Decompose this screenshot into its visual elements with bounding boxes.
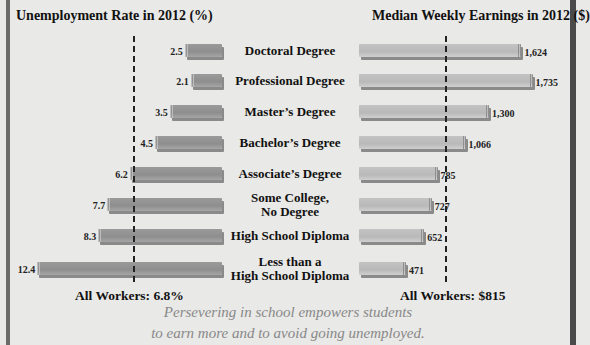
category-label-line-1: High School Diploma — [225, 229, 355, 243]
unemployment-value-label: 4.5 — [140, 138, 153, 150]
unemployment-bar — [98, 229, 222, 242]
earnings-bar — [359, 262, 406, 275]
earnings-value-label: 471 — [409, 265, 424, 277]
category-label-line-2: High School Diploma — [225, 269, 355, 283]
unemployment-title: Unemployment Rate in 2012 (%) — [16, 8, 213, 24]
category-label: Professional Degree — [225, 74, 355, 88]
unemployment-bar — [170, 105, 222, 118]
category-label-line-1: Master’s Degree — [225, 105, 355, 119]
unemployment-value-label: 6.2 — [115, 169, 128, 181]
unemployment-bar — [191, 74, 222, 87]
category-label-line-1: Some College, — [225, 191, 355, 205]
unemployment-value-label: 2.5 — [170, 46, 183, 58]
category-label: Some College,No Degree — [225, 191, 355, 219]
earnings-bar — [359, 198, 432, 211]
category-label-line-2: No Degree — [225, 205, 355, 219]
frame-right-border — [570, 0, 576, 345]
category-label: Doctoral Degree — [225, 44, 355, 58]
unemployment-value-label: 3.5 — [155, 107, 168, 119]
unemployment-value-label: 8.3 — [84, 231, 97, 243]
caption: Persevering in school empowers students … — [0, 302, 576, 344]
earnings-value-label: 1,066 — [469, 139, 492, 151]
unemployment-bar — [155, 136, 222, 149]
category-label: Master’s Degree — [225, 105, 355, 119]
unemployment-value-label: 2.1 — [176, 76, 189, 88]
caption-line-2: to earn more and to avoid going unemploy… — [0, 323, 576, 344]
category-label: Bachelor’s Degree — [225, 136, 355, 150]
unemployment-average-line — [133, 36, 135, 282]
earnings-bar — [359, 44, 521, 57]
earnings-value-label: 727 — [435, 201, 450, 213]
earnings-bar — [359, 105, 489, 118]
earnings-value-label: 1,624 — [524, 47, 547, 59]
earnings-bar — [359, 229, 424, 242]
earnings-bar — [359, 167, 438, 180]
earnings-title: Median Weekly Earnings in 2012 ($) — [372, 8, 590, 24]
unemployment-value-label: 7.7 — [93, 200, 106, 212]
unemployment-bar — [37, 262, 222, 275]
category-label: Less than aHigh School Diploma — [225, 255, 355, 283]
unemployment-bar — [130, 167, 222, 180]
unemployment-bar — [185, 44, 222, 57]
earnings-bar — [359, 136, 466, 149]
category-label-line-1: Professional Degree — [225, 74, 355, 88]
earnings-value-label: 785 — [441, 170, 456, 182]
caption-line-1: Persevering in school empowers students — [0, 302, 576, 323]
category-label-line-1: Doctoral Degree — [225, 44, 355, 58]
unemployment-bar — [107, 198, 222, 211]
frame-left-border — [6, 0, 10, 345]
category-label-line-1: Less than a — [225, 255, 355, 269]
earnings-value-label: 1,300 — [492, 108, 515, 120]
unemployment-value-label: 12.4 — [18, 264, 36, 276]
earnings-value-label: 1,735 — [536, 77, 559, 89]
category-label: High School Diploma — [225, 229, 355, 243]
earnings-value-label: 652 — [427, 232, 442, 244]
category-label-line-1: Associate’s Degree — [225, 167, 355, 181]
earnings-average-line — [445, 36, 447, 282]
category-label-line-1: Bachelor’s Degree — [225, 136, 355, 150]
category-label: Associate’s Degree — [225, 167, 355, 181]
